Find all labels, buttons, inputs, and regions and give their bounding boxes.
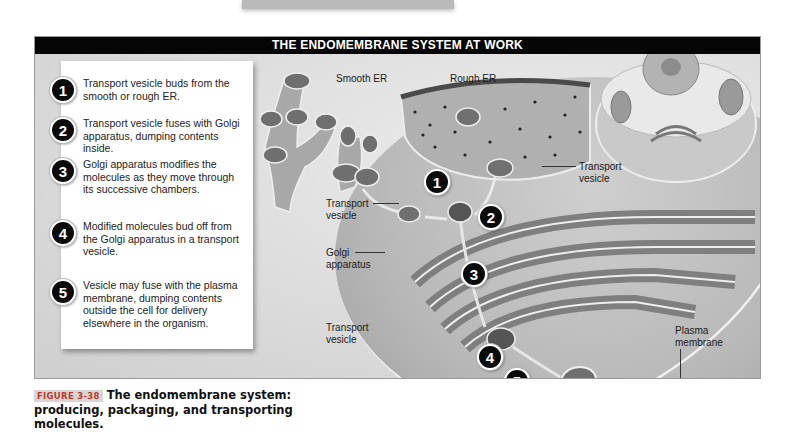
label-rough-er: Rough ER [450,73,496,85]
vesicle-icon [398,206,420,222]
leader-line [542,166,576,167]
figure-caption: FIGURE 3-38The endomembrane system: prod… [34,388,334,431]
step-text: Golgi apparatus modifies the molecules a… [83,158,243,196]
diagram-badge-3: 3 [461,261,487,287]
exocytosis-vesicle-icon [560,367,597,379]
step-5: 5 Vesicle may fuse with the plasma membr… [61,279,253,329]
vesicle-icon [448,202,472,222]
step-number-badge: 3 [50,158,76,184]
label-golgi-apparatus: Golgi apparatus [326,247,381,270]
diagram-badge-4: 4 [477,344,503,370]
leader-line [355,252,385,253]
figure-panel: THE ENDOMEMBRANE SYSTEM AT WORK [34,36,761,379]
step-3: 3 Golgi apparatus modifies the molecules… [61,158,253,196]
steps-list: 1 Transport vesicle buds from the smooth… [61,61,253,349]
diagram-badge-2: 2 [478,204,504,230]
step-1: 1 Transport vesicle buds from the smooth… [61,77,253,102]
page-top-shadow-bar [242,0,454,9]
label-smooth-er: Smooth ER [336,73,387,85]
figure-header: THE ENDOMEMBRANE SYSTEM AT WORK [35,37,760,54]
step-text: Vesicle may fuse with the plasma membran… [83,279,243,329]
smooth-er-icon [260,73,379,212]
leader-line [373,203,399,204]
step-number-badge: 5 [50,279,76,305]
label-transport-vesicle-lower: Transport vesicle [326,322,376,345]
label-transport-vesicle-right: Transport vesicle [579,161,629,184]
figure-number-tag: FIGURE 3-38 [34,390,103,402]
step-number-badge: 4 [50,220,76,246]
label-plasma-membrane: Plasma membrane [675,325,730,348]
step-4: 4 Modified molecules bud off from the Go… [61,220,253,258]
step-number-badge: 1 [50,77,76,103]
label-transport-vesicle-left: Transport vesicle [326,198,376,221]
rough-er-icon [401,81,590,180]
step-number-badge: 2 [50,117,76,143]
diagram-badge-1: 1 [424,169,450,195]
step-text: Transport vesicle fuses with Golgi appar… [83,117,243,155]
step-text: Transport vesicle buds from the smooth o… [83,77,243,102]
leader-line [680,349,681,379]
step-2: 2 Transport vesicle fuses with Golgi app… [61,117,253,155]
step-text: Modified molecules bud off from the Golg… [83,220,243,258]
